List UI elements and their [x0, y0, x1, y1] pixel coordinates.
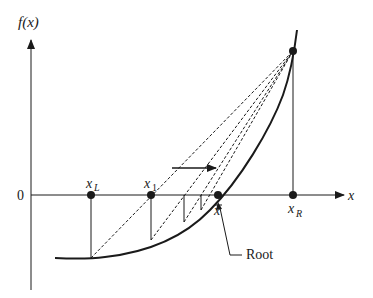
y-axis-label: f(x)	[18, 14, 39, 31]
svg-text:L: L	[93, 182, 100, 193]
root-point	[214, 191, 222, 199]
svg-text:x: x	[287, 201, 295, 216]
svg-text:1: 1	[152, 182, 157, 193]
false-position-diagram: f(x) x 0 x L x 1 x x R Root	[0, 0, 373, 298]
root-label: Root	[246, 247, 273, 262]
svg-text:x: x	[85, 176, 93, 191]
svg-text:x: x	[143, 176, 151, 191]
origin-label: 0	[17, 188, 24, 203]
svg-text:x: x	[213, 203, 221, 218]
root-leader-line	[220, 208, 242, 255]
x-axis-label: x	[347, 188, 355, 203]
svg-text:R: R	[295, 208, 302, 219]
x1-label: x 1	[143, 176, 157, 193]
f-xR-point	[289, 47, 297, 55]
xR-label: x R	[287, 201, 302, 219]
xL-label: x L	[85, 176, 100, 193]
xR-point	[289, 191, 297, 199]
